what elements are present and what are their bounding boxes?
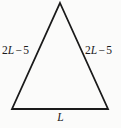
left-side-constant: 5	[23, 44, 29, 56]
left-side-operator: −	[14, 44, 23, 56]
left-side-label: 2L−5	[2, 45, 29, 57]
right-side-operator: −	[97, 44, 106, 56]
triangle-shape	[0, 0, 121, 128]
base-label: L	[0, 112, 121, 124]
right-side-label: 2L−5	[85, 45, 112, 57]
right-side-constant: 5	[106, 44, 112, 56]
base-variable: L	[57, 111, 63, 123]
triangle-figure: 2L−5 2L−5 L	[0, 0, 121, 128]
